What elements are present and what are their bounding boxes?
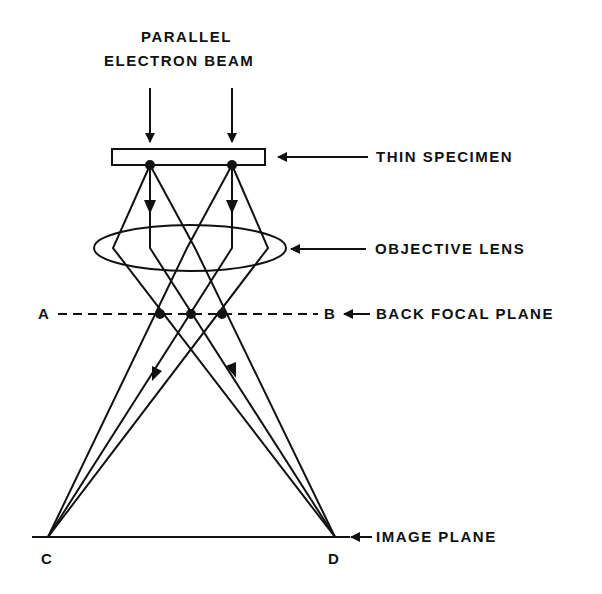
- ray-arrowhead: [144, 200, 156, 214]
- ray-right-diffracted-a: [48, 165, 268, 537]
- tem-ray-diagram: [0, 0, 602, 594]
- ray-left-diffracted-a: [113, 165, 335, 537]
- objective-lens: [94, 225, 286, 271]
- beam-label-line2: ELECTRON BEAM: [104, 52, 254, 69]
- point-a: A: [38, 305, 50, 322]
- bfp-focus-left: [155, 309, 165, 319]
- ray-arrowhead: [226, 200, 238, 214]
- point-b: B: [324, 305, 336, 322]
- bfp-focus-center: [186, 309, 196, 319]
- ray-left-diffracted-b: [150, 165, 335, 537]
- beam-label-line1: PARALLEL: [141, 28, 232, 45]
- bfp-focus-right: [217, 309, 227, 319]
- ray-arrowhead: [152, 366, 162, 381]
- point-c: C: [41, 550, 53, 567]
- ray-right-diffracted-b: [48, 165, 232, 537]
- label-back-focal-plane: BACK FOCAL PLANE: [376, 305, 554, 322]
- label-objective-lens: OBJECTIVE LENS: [375, 240, 525, 257]
- label-thin-specimen: THIN SPECIMEN: [376, 148, 513, 165]
- label-image-plane: IMAGE PLANE: [376, 528, 497, 545]
- point-d: D: [328, 550, 340, 567]
- specimen-point-left: [145, 160, 155, 170]
- specimen-point-right: [227, 160, 237, 170]
- thin-specimen: [112, 149, 265, 165]
